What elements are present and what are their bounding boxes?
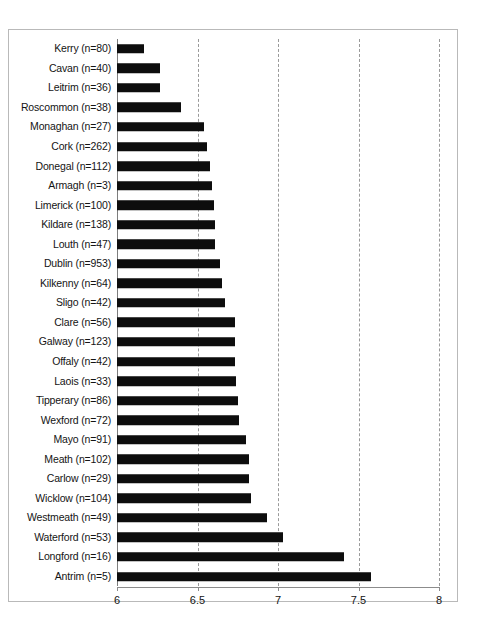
category-label: Leitrim (n=36)	[9, 82, 117, 93]
x-axis-tick	[439, 587, 440, 591]
bar-lane	[117, 39, 457, 59]
bar	[117, 200, 214, 210]
bar	[117, 279, 222, 289]
bar-lane	[117, 449, 457, 469]
plot-area: Kerry (n=80)Cavan (n=40)Leitrim (n=36)Ro…	[9, 30, 457, 601]
bar-row: Carlow (n=29)	[9, 469, 457, 489]
x-axis-tick-label: 7	[275, 594, 281, 606]
bar-row: Offaly (n=42)	[9, 352, 457, 372]
bar-row: Kildare (n=138)	[9, 215, 457, 235]
category-label: Waterford (n=53)	[9, 532, 117, 543]
bar	[117, 337, 235, 347]
bar-row: Limerick (n=100)	[9, 195, 457, 215]
bar-lane	[117, 567, 457, 587]
bar-row: Westmeath (n=49)	[9, 508, 457, 528]
bar-lane	[117, 430, 457, 450]
category-label: Cork (n=262)	[9, 141, 117, 152]
category-label: Antrim (n=5)	[9, 571, 117, 582]
bar-row: Kilkenny (n=64)	[9, 274, 457, 294]
bar-row: Leitrim (n=36)	[9, 78, 457, 98]
bar-lane	[117, 195, 457, 215]
x-axis-tick-label: 8	[436, 594, 442, 606]
category-label: Dublin (n=953)	[9, 258, 117, 269]
x-axis-tick	[278, 587, 279, 591]
bar-row: Waterford (n=53)	[9, 528, 457, 548]
bar-lane	[117, 371, 457, 391]
bar-lane	[117, 293, 457, 313]
bar-row: Cork (n=262)	[9, 137, 457, 157]
category-label: Mayo (n=91)	[9, 434, 117, 445]
bar-row: Galway (n=123)	[9, 332, 457, 352]
bar-row: Monaghan (n=27)	[9, 117, 457, 137]
bar	[117, 220, 215, 230]
bar-lane	[117, 137, 457, 157]
bar-lane	[117, 508, 457, 528]
x-axis-tick-label: 6.5	[190, 594, 205, 606]
bar	[117, 376, 236, 386]
bar	[117, 239, 215, 249]
category-label: Roscommon (n=38)	[9, 102, 117, 113]
category-label: Westmeath (n=49)	[9, 512, 117, 523]
bar-row: Donegal (n=112)	[9, 156, 457, 176]
bar-lane	[117, 215, 457, 235]
bar-row: Wexford (n=72)	[9, 410, 457, 430]
bar-lane	[117, 528, 457, 548]
x-axis-tick	[198, 587, 199, 591]
chart-frame: Kerry (n=80)Cavan (n=40)Leitrim (n=36)Ro…	[8, 29, 458, 602]
bar	[117, 122, 204, 132]
bar-lane	[117, 352, 457, 372]
bar	[117, 357, 235, 367]
bar-lane	[117, 98, 457, 118]
bar	[117, 44, 144, 54]
bar-lane	[117, 117, 457, 137]
bar-lane	[117, 332, 457, 352]
category-label: Meath (n=102)	[9, 454, 117, 465]
category-label: Tipperary (n=86)	[9, 395, 117, 406]
bar-lane	[117, 410, 457, 430]
category-label: Wicklow (n=104)	[9, 493, 117, 504]
bar	[117, 415, 239, 425]
bar	[117, 83, 160, 93]
bar-lane	[117, 391, 457, 411]
category-label: Wexford (n=72)	[9, 415, 117, 426]
bar-row: Dublin (n=953)	[9, 254, 457, 274]
bar	[117, 64, 160, 74]
category-label: Donegal (n=112)	[9, 161, 117, 172]
category-label: Kilkenny (n=64)	[9, 278, 117, 289]
bar-lane	[117, 274, 457, 294]
bar-row: Louth (n=47)	[9, 234, 457, 254]
bar	[117, 161, 210, 171]
category-label: Kildare (n=138)	[9, 219, 117, 230]
category-label: Limerick (n=100)	[9, 200, 117, 211]
bar	[117, 474, 249, 484]
bar-lane	[117, 313, 457, 333]
bar	[117, 572, 371, 582]
category-label: Louth (n=47)	[9, 239, 117, 250]
x-axis-tick-label: 6	[114, 594, 120, 606]
bar	[117, 181, 212, 191]
bar-row: Armagh (n=3)	[9, 176, 457, 196]
bar-row: Antrim (n=5)	[9, 567, 457, 587]
category-label: Kerry (n=80)	[9, 43, 117, 54]
bar-row: Meath (n=102)	[9, 449, 457, 469]
x-axis-tick	[359, 587, 360, 591]
bar-row: Cavan (n=40)	[9, 59, 457, 79]
bar	[117, 455, 249, 465]
bar-lane	[117, 78, 457, 98]
category-label: Monaghan (n=27)	[9, 121, 117, 132]
bar-row: Clare (n=56)	[9, 313, 457, 333]
category-label: Galway (n=123)	[9, 336, 117, 347]
bar	[117, 435, 246, 445]
category-label: Armagh (n=3)	[9, 180, 117, 191]
bar-lane	[117, 234, 457, 254]
bar	[117, 396, 238, 406]
bar-lane	[117, 547, 457, 567]
bar-row: Wicklow (n=104)	[9, 489, 457, 509]
bar-rows: Kerry (n=80)Cavan (n=40)Leitrim (n=36)Ro…	[9, 39, 457, 586]
bar-row: Mayo (n=91)	[9, 430, 457, 450]
category-label: Clare (n=56)	[9, 317, 117, 328]
bar-row: Kerry (n=80)	[9, 39, 457, 59]
bar	[117, 318, 235, 328]
bar-lane	[117, 59, 457, 79]
category-label: Cavan (n=40)	[9, 63, 117, 74]
